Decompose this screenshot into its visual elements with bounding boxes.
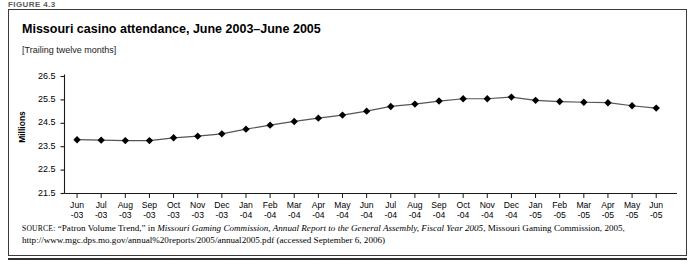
chart-plot-area: Millions 21.522.523.524.525.526.5Jun-03J… [9, 10, 688, 257]
y-axis-tick-label: 23.5 [26, 141, 56, 151]
y-axis-tick-label: 22.5 [26, 164, 56, 174]
y-axis-tick-label: 26.5 [26, 71, 56, 81]
source-word: SOURCE: [22, 224, 55, 233]
source-part1: “Patron Volume Trend,” in [55, 223, 157, 233]
bottom-rule [8, 258, 687, 260]
x-axis-tick-label: Jun-05 [639, 200, 673, 221]
figure-label: FIGURE 4.3 [8, 0, 56, 8]
y-axis-tick-label: 24.5 [26, 117, 56, 127]
y-axis-tick-label: 25.5 [26, 94, 56, 104]
source-italic: Missouri Gaming Commission, Annual Repor… [157, 223, 483, 233]
source-note: SOURCE: “Patron Volume Trend,” in Missou… [22, 223, 676, 246]
figure-box: Missouri casino attendance, June 2003–Ju… [8, 9, 687, 256]
y-axis-tick-label: 21.5 [26, 188, 56, 198]
